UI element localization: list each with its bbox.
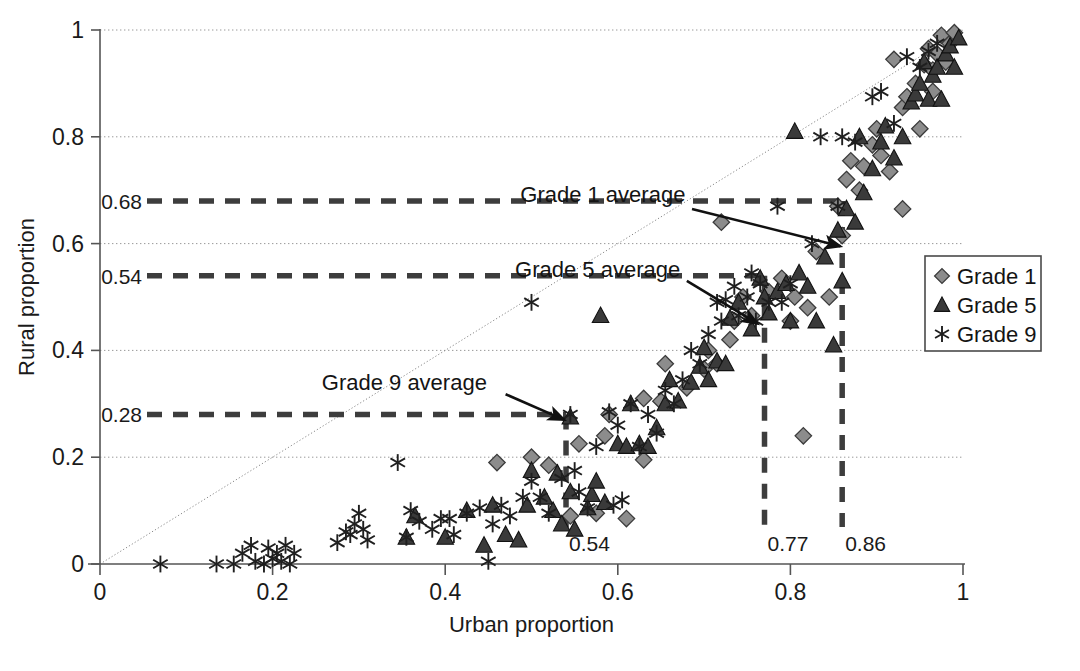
point-grade-1 [722,332,738,348]
point-grade-1 [571,436,587,452]
point-grade-5 [834,272,851,287]
v-dashed-label-0.77: 0.77 [768,532,809,555]
h-dashed-label-0.54: 0.54 [101,265,142,288]
point-grade-1 [894,201,910,217]
y-axis-title: Rural proportion [14,218,39,376]
point-grade-5 [476,537,493,552]
point-grade-1 [657,356,673,372]
y-tick-label-0.6: 0.6 [52,231,84,257]
point-grade-9 [865,88,880,105]
point-grade-9 [485,516,500,533]
x-axis-title: Urban proportion [449,612,614,637]
point-grade-5 [497,526,514,541]
legend-label-grade-9: Grade 9 [957,322,1037,347]
point-grade-9 [641,406,656,423]
h-dashed-label-0.28: 0.28 [101,403,142,426]
point-grade-1 [489,454,505,470]
y-tick-label-0: 0 [71,551,84,577]
point-grade-9 [425,521,440,538]
point-grade-9 [813,128,828,145]
x-tick-label-0: 0 [94,579,107,605]
point-grade-9 [524,294,539,311]
y-tick-label-1: 1 [71,17,84,43]
point-grade-5 [592,307,609,322]
point-grade-9 [874,83,889,100]
x-tick-label-0.4: 0.4 [429,579,461,605]
point-grade-9 [503,508,518,525]
point-grade-1 [635,390,651,406]
point-grade-9 [472,500,487,517]
point-grade-9 [615,492,630,509]
point-grade-1 [597,428,613,444]
x-tick-label-0.6: 0.6 [602,579,634,605]
annotation-arrow-grade1-avg [692,209,840,246]
point-grade-5 [894,128,911,143]
point-grade-9 [330,534,345,551]
point-grade-1 [618,510,634,526]
point-grade-1 [799,299,815,315]
point-grade-1 [912,121,928,137]
v-dashed-label-0.86: 0.86 [845,532,886,555]
point-grade-5 [661,371,678,386]
series-grade-5 [398,29,967,552]
y-tick-label-0.2: 0.2 [52,444,84,470]
y-tick-label-0.4: 0.4 [52,337,84,363]
scatter-plot: 00.20.40.60.8100.20.40.60.81Urban propor… [0,0,1080,671]
legend-label-grade-1: Grade 1 [957,264,1037,289]
point-grade-1 [795,428,811,444]
figure-container: 00.20.40.60.8100.20.40.60.81Urban propor… [0,0,1080,671]
point-grade-9 [434,510,449,527]
annotation-label-grade9-avg: Grade 9 average [322,370,487,395]
legend-label-grade-5: Grade 5 [957,293,1037,318]
point-grade-5 [808,312,825,327]
annotation-label-grade5-avg: Grade 5 average [515,257,680,282]
point-grade-5 [791,264,808,279]
series-grade-9 [153,35,944,572]
x-tick-label-0.2: 0.2 [257,579,289,605]
y-tick-label-0.8: 0.8 [52,124,84,150]
point-grade-1 [838,171,854,187]
point-grade-1 [635,452,651,468]
point-grade-1 [881,163,897,179]
point-grade-5 [825,336,842,351]
point-grade-9 [567,462,582,479]
point-grade-9 [442,510,457,527]
legend: Grade 1Grade 5Grade 9 [925,256,1041,351]
annotation-label-grade1-avg: Grade 1 average [520,182,685,207]
x-tick-label-0.8: 0.8 [774,579,806,605]
point-grade-1 [821,289,837,305]
x-tick-label-1: 1 [957,579,970,605]
point-grade-9 [390,454,405,471]
h-dashed-label-0.68: 0.68 [101,190,142,213]
axes: 00.20.40.60.8100.20.40.60.81Urban propor… [14,17,969,637]
point-grade-9 [481,553,496,570]
point-grade-9 [900,48,915,65]
point-grade-5 [588,473,605,488]
